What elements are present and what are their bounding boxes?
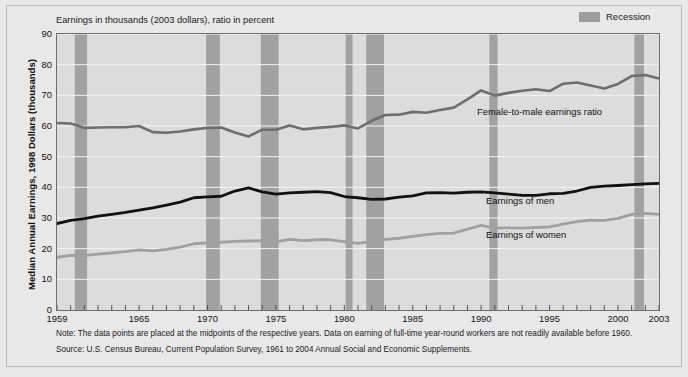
chart-figure: Recession Median Annual Earnings, 1998 D… [0, 0, 688, 377]
recession-band [366, 34, 384, 310]
chart-frame: Recession Median Annual Earnings, 1998 D… [6, 5, 682, 367]
x-axis-tick-label: 1980 [334, 314, 355, 323]
x-axis-tick-label: 2000 [608, 314, 629, 323]
footnote-source: Source: U.S. Census Bureau, Current Popu… [56, 344, 676, 356]
y-axis-tick-label: 50 [10, 152, 52, 161]
x-axis-tick-labels: 1959196519701975198019851990199520002003 [56, 314, 666, 328]
y-axis-tick-label: 20 [10, 244, 52, 253]
series-annotation-ratio: Female-to-male earnings ratio [477, 107, 602, 116]
y-axis-tick-label: 80 [10, 60, 52, 69]
series-line [57, 183, 659, 223]
units-caption: Earnings in thousands (2003 dollars), ra… [56, 15, 274, 25]
series-line [57, 213, 659, 257]
recession-band [206, 34, 220, 310]
recession-band [261, 34, 279, 310]
plot-area [56, 33, 660, 311]
x-axis-tick-label: 1970 [197, 314, 218, 323]
recession-band [489, 34, 497, 310]
y-axis-tick-labels: 0102030405060708090 [7, 33, 52, 311]
x-axis-tick-label: 1965 [129, 314, 150, 323]
x-axis-tick-label: 1959 [47, 314, 68, 323]
y-axis-tick-label: 30 [10, 213, 52, 222]
plot-svg [57, 34, 659, 310]
series-annotation-men: Earnings of men [486, 196, 554, 205]
recession-band [346, 34, 353, 310]
y-axis-tick-label: 70 [10, 90, 52, 99]
y-axis-tick-label: 40 [10, 182, 52, 191]
data-series-group [57, 75, 659, 257]
recession-swatch-icon [579, 12, 600, 22]
y-axis-tick-label: 10 [10, 274, 52, 283]
y-axis-tick-label: 60 [10, 121, 52, 130]
x-axis-tick-label: 1990 [471, 314, 492, 323]
x-axis-tick-label: 2003 [649, 314, 670, 323]
series-annotation-women: Earnings of women [486, 230, 566, 239]
y-axis-tick-label: 90 [10, 29, 52, 38]
x-axis-tick-label: 1985 [402, 314, 423, 323]
footnote-note: Note: The data points are placed at the … [56, 328, 676, 340]
recession-bands [75, 34, 644, 310]
legend-label-recession: Recession [606, 12, 650, 22]
legend: Recession [579, 12, 650, 22]
x-axis-ticks [57, 305, 659, 310]
recession-band [75, 34, 87, 310]
x-axis-tick-label: 1975 [265, 314, 286, 323]
footnotes: Note: The data points are placed at the … [56, 328, 676, 355]
x-axis-tick-label: 1995 [539, 314, 560, 323]
